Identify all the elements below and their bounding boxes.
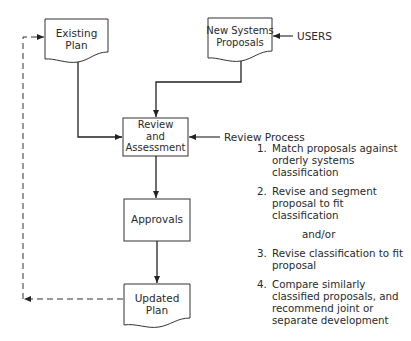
existing-plan-line1: Existing	[45, 27, 108, 39]
step-text: Match proposals against orderly systems …	[272, 142, 398, 178]
review-line2: and	[123, 131, 188, 143]
review-step-2: 2.Revise and segment proposal to fit cla…	[257, 185, 407, 221]
edge-proposals-to-review	[156, 61, 241, 117]
updated-plan-line1: Updated	[124, 292, 190, 304]
edge-feedback-dashed-vertical	[23, 37, 44, 299]
step-number: 3.	[257, 247, 267, 259]
new-proposals-line1: New Systems	[206, 25, 274, 37]
approvals-line1: Approvals	[124, 213, 190, 225]
updated-plan-line2: Plan	[124, 304, 190, 316]
review-step-1: 1.Match proposals against orderly system…	[257, 142, 407, 178]
review-line1: Review	[123, 119, 188, 131]
review-steps-list: 1.Match proposals against orderly system…	[257, 142, 407, 333]
step-text: Revise and segment proposal to fit class…	[272, 185, 377, 221]
existing-plan-label: Existing Plan	[45, 27, 108, 51]
new-proposals-line2: Proposals	[206, 37, 274, 49]
edge-existing-to-review	[78, 62, 122, 137]
new-proposals-label: New Systems Proposals	[206, 25, 274, 49]
existing-plan-line2: Plan	[45, 39, 108, 51]
step-text: Revise classification to fit proposal	[272, 247, 403, 271]
review-step-4: 4.Compare similarly classified proposals…	[257, 278, 407, 326]
and-or-connector: and/or	[257, 228, 407, 240]
step-number: 4.	[257, 278, 267, 290]
step-text: Compare similarly classified proposals, …	[272, 278, 399, 326]
approvals-label: Approvals	[124, 213, 190, 225]
updated-plan-label: Updated Plan	[124, 292, 190, 316]
review-label: Review and Assessment	[123, 119, 188, 154]
step-number: 2.	[257, 185, 267, 197]
users-label: USERS	[297, 30, 332, 42]
review-step-3: 3.Revise classification to fit proposal	[257, 247, 407, 271]
review-line3: Assessment	[123, 142, 188, 154]
step-number: 1.	[257, 142, 267, 154]
